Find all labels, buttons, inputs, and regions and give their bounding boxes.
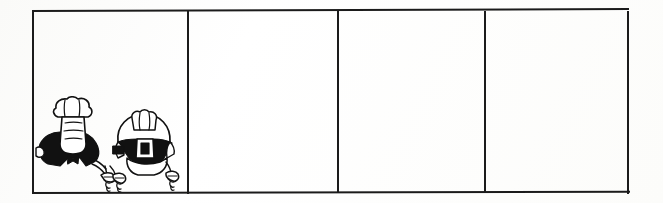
scanned-page (0, 0, 663, 203)
two-robed-figures-icon (34, 96, 187, 192)
comic-panel-3[interactable] (339, 10, 484, 194)
strip-border-right (627, 11, 629, 194)
comic-panel-4[interactable] (486, 10, 627, 194)
panel-1-artwork (34, 96, 187, 192)
comic-strip (32, 10, 629, 194)
comic-panel-2[interactable] (189, 10, 337, 194)
